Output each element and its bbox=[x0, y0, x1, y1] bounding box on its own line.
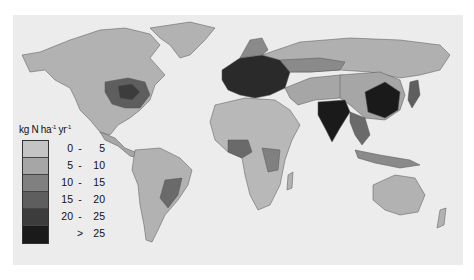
madagascar bbox=[287, 172, 293, 190]
unit-yr-exponent: -1 bbox=[66, 124, 71, 130]
legend-swatch-column bbox=[22, 140, 49, 244]
indonesia bbox=[355, 150, 420, 168]
unit-ha-exponent: -1 bbox=[51, 124, 56, 130]
legend: kg N ha-1 yr-1 0-5 5-10 10-15 15-20 20-2… bbox=[19, 124, 71, 140]
legend-label-20-25: 20-25 bbox=[53, 210, 113, 222]
europe bbox=[222, 55, 290, 98]
legend-swatch-gt-25 bbox=[23, 226, 48, 243]
legend-title: kg N ha-1 yr-1 bbox=[19, 124, 71, 135]
legend-swatch-10-15 bbox=[23, 175, 48, 192]
australia bbox=[373, 175, 425, 215]
unit-base: kg N ha bbox=[19, 124, 51, 135]
japan bbox=[408, 80, 420, 108]
legend-swatch-5-10 bbox=[23, 158, 48, 175]
legend-swatch-20-25 bbox=[23, 209, 48, 226]
legend-label-15-20: 15-20 bbox=[53, 193, 113, 205]
legend-label-0-5: 0-5 bbox=[53, 142, 113, 154]
greenland bbox=[150, 22, 215, 58]
legend-swatch-0-5 bbox=[23, 141, 48, 158]
legend-label-10-15: 10-15 bbox=[53, 176, 113, 188]
legend-label-gt-25: >25 bbox=[53, 227, 113, 239]
legend-label-5-10: 5-10 bbox=[53, 159, 113, 171]
africa bbox=[210, 98, 300, 210]
new-zealand bbox=[437, 208, 446, 228]
india bbox=[318, 100, 350, 142]
legend-swatch-15-20 bbox=[23, 192, 48, 209]
